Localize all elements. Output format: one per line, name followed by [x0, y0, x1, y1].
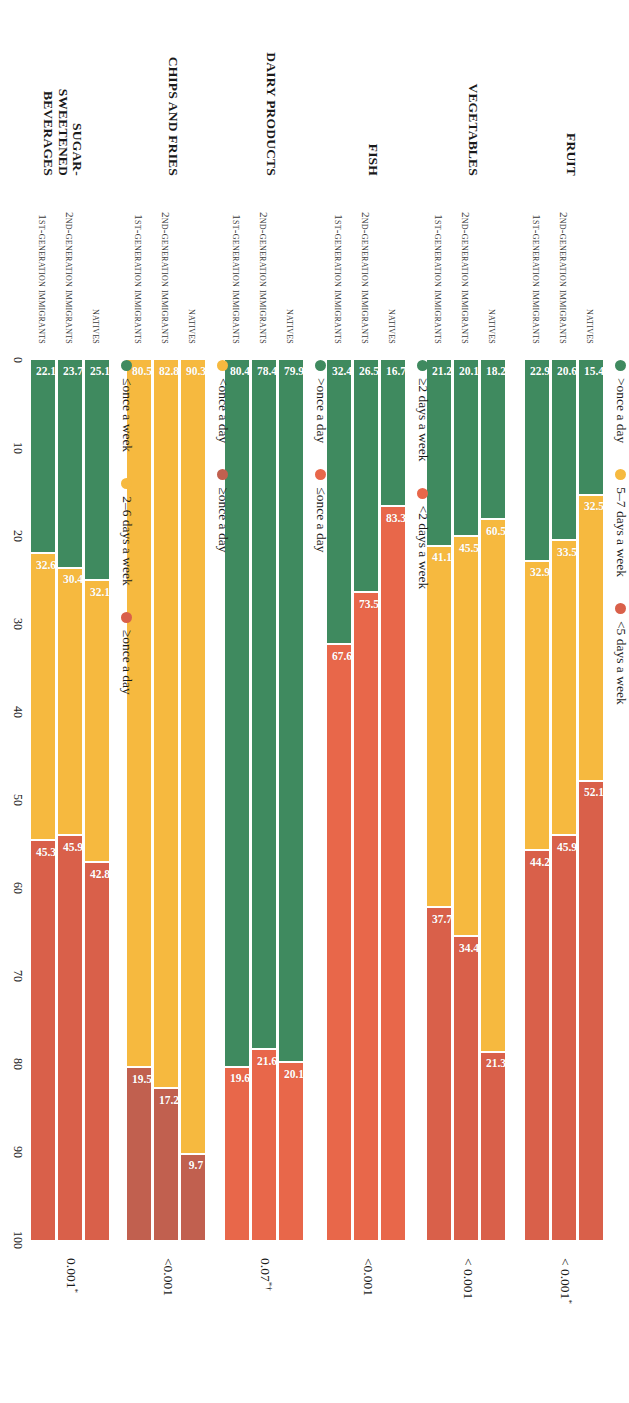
legend-label: 2–6 days a week — [119, 496, 135, 586]
bar-segment: 45.3 — [31, 841, 55, 1240]
bar-natives: 15.432.552.1 — [579, 360, 603, 1240]
row-label-natives: Natives — [481, 176, 505, 352]
p-value-text: <0.001 — [161, 1258, 176, 1296]
legend-item: ≤once a week — [119, 360, 135, 452]
row-label-2nd-generation-immigrants: 2nd-generation immigrants — [354, 176, 378, 352]
panel-title: Fruit — [564, 8, 578, 176]
bar-segment: 44.2 — [525, 851, 549, 1240]
plot-area: 15.432.552.120.633.545.922.932.944.2 — [525, 360, 603, 1240]
bar-segment: 17.2 — [154, 1089, 178, 1240]
row-label-natives: Natives — [579, 176, 603, 352]
legend-item: 5–7 days a week — [613, 469, 629, 577]
bar-value-label: 52.1 — [579, 787, 603, 799]
legend-item: ≤once a day — [313, 469, 329, 552]
legend-item: ≥once a day — [119, 612, 135, 695]
bar-segment: 67.6 — [327, 645, 351, 1240]
bar-segment: 45.9 — [58, 836, 82, 1240]
row-label-2nd-generation-immigrants: 2nd-generation immigrants — [252, 176, 276, 352]
bar-segment: 22.9 — [525, 360, 549, 562]
bar-1st-generation-immigrants: 22.132.645.3 — [31, 360, 55, 1240]
bar-value-label: 67.6 — [327, 650, 351, 662]
row-label-1st-generation-immigrants: 1st-generation immigrants — [427, 176, 451, 352]
bar-segment: 32.1 — [85, 581, 109, 863]
legend-fruit: >once a day5–7 days a week<5 days a week — [613, 360, 629, 1240]
legend-swatch-icon — [316, 360, 327, 371]
bar-value-label: 45.3 — [31, 846, 55, 858]
bar-segment: 21.3 — [481, 1053, 505, 1240]
legend-swatch-icon — [122, 612, 133, 623]
row-label-natives: Natives — [279, 176, 303, 352]
row-labels: Natives2nd-generation immigrants1st-gene… — [127, 176, 205, 352]
legend-swatch-icon — [122, 360, 133, 371]
plot-area: 16.783.326.573.532.467.6 — [327, 360, 405, 1240]
bar-2nd-generation-immigrants: 26.573.5 — [354, 360, 378, 1240]
bar-segment: 90.3 — [181, 360, 205, 1155]
legend-label: 5–7 days a week — [613, 487, 629, 577]
bar-value-label: 90.3 — [181, 365, 205, 377]
bar-segment: 26.5 — [354, 360, 378, 593]
bar-segment: 45.9 — [552, 836, 576, 1240]
bar-value-label: 22.9 — [525, 365, 549, 377]
bar-segment: 60.5 — [481, 520, 505, 1052]
p-value-text: < 0.001 — [461, 1258, 476, 1299]
bar-value-label: 42.8 — [85, 868, 109, 880]
panel-title: Chips and fries — [166, 8, 180, 176]
row-label-1st-generation-immigrants: 1st-generation immigrants — [127, 176, 151, 352]
bar-value-label: 73.5 — [354, 598, 378, 610]
plot-area: 79.920.178.421.680.419.6 — [225, 360, 303, 1240]
plot-area: 90.39.782.817.280.519.5 — [127, 360, 205, 1240]
bar-2nd-generation-immigrants: 82.817.2 — [154, 360, 178, 1240]
plot-area: 25.132.142.823.730.445.922.132.645.3 — [31, 360, 109, 1240]
panel-sugar-sweetened-beverages: ≤once a week2–6 days a week≥once a daySu… — [31, 0, 109, 1403]
bar-value-label: 23.7 — [58, 365, 82, 377]
bar-segment: 83.3 — [381, 507, 405, 1240]
bar-value-label: 32.9 — [525, 567, 549, 579]
bar-segment: 16.7 — [381, 360, 405, 507]
bar-value-label: 17.2 — [154, 1094, 178, 1106]
bar-value-label: 21.6 — [252, 1055, 276, 1067]
panel-title: Fish — [366, 8, 380, 176]
bar-segment: 33.5 — [552, 541, 576, 836]
row-label-2nd-generation-immigrants: 2nd-generation immigrants — [154, 176, 178, 352]
panel-title: Vegetables — [466, 8, 480, 176]
x-axis-tick: 90 — [10, 1146, 25, 1158]
bar-segment: 32.6 — [31, 554, 55, 841]
x-axis-tick: 30 — [10, 618, 25, 630]
legend-item: >once a day — [613, 360, 629, 443]
bar-segment: 18.2 — [481, 360, 505, 520]
row-label-natives: Natives — [381, 176, 405, 352]
bar-natives: 16.783.3 — [381, 360, 405, 1240]
legend-label: ≥once a day — [215, 487, 231, 552]
bar-segment: 78.4 — [252, 360, 276, 1050]
panel-vegetables: VegetablesNatives2nd-generation immigran… — [427, 0, 505, 1403]
row-labels: Natives2nd-generation immigrants1st-gene… — [225, 176, 303, 352]
bar-value-label: 45.5 — [454, 542, 478, 554]
x-axis-tick: 10 — [10, 442, 25, 454]
legend-sugar-sweetened-beverages: ≤once a week2–6 days a week≥once a day — [119, 360, 135, 1240]
bar-segment: 25.1 — [85, 360, 109, 581]
row-label-1st-generation-immigrants: 1st-generation immigrants — [31, 176, 55, 352]
legend-item: <5 days a week — [613, 603, 629, 705]
bar-natives: 90.39.7 — [181, 360, 205, 1240]
bar-segment: 15.4 — [579, 360, 603, 496]
legend-chips-and-fries: <once a day≥once a day — [215, 360, 231, 1240]
bar-1st-generation-immigrants: 32.467.6 — [327, 360, 351, 1240]
legend-swatch-icon — [616, 603, 627, 614]
p-value-label: < 0.001* — [557, 1258, 575, 1304]
legend-swatch-icon — [616, 360, 627, 371]
bar-segment: 23.7 — [58, 360, 82, 569]
bar-value-label: 20.1 — [279, 1068, 303, 1080]
legend-label: ≥once a day — [119, 630, 135, 695]
bar-natives: 79.920.1 — [279, 360, 303, 1240]
legend-label: >once a day — [313, 378, 329, 443]
legend-swatch-icon — [418, 488, 429, 499]
bar-value-label: 32.5 — [579, 501, 603, 513]
legend-label: <5 days a week — [613, 621, 629, 705]
bar-value-label: 9.7 — [183, 1160, 203, 1172]
x-axis-tick: 40 — [10, 706, 25, 718]
p-value-text: 0.07 — [258, 1258, 273, 1282]
panel-fruit: >once a day5–7 days a week<5 days a week… — [525, 0, 603, 1403]
bar-value-label: 26.5 — [354, 365, 378, 377]
bar-segment: 79.9 — [279, 360, 303, 1063]
